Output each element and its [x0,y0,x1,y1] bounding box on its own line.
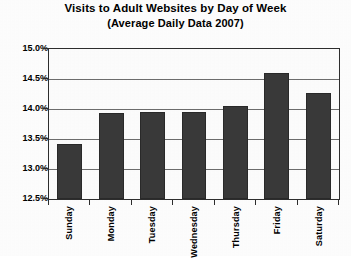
y-axis-tick-label: 14.5% [2,73,48,83]
y-axis-tick-label: 13.0% [2,163,48,173]
y-axis-tick-label: 13.5% [2,133,48,143]
x-axis: SundayMondayTuesdayWednesdayThursdayFrid… [48,200,340,256]
x-axis-tick-mark [214,200,215,205]
bar-slot [49,49,90,199]
x-axis-tick-label: Sunday [64,206,74,240]
y-axis-tick-label: 12.5% [2,193,48,203]
x-axis-tick-mark [338,200,339,205]
bar [264,73,289,199]
bar-slot [173,49,214,199]
x-axis-tick-mark [48,200,49,205]
bar-slot [132,49,173,199]
bar [182,112,207,199]
x-axis-tick-mark [131,200,132,205]
x-axis-label-slot: Monday [90,206,132,256]
bar [140,112,165,199]
x-axis-tick-label: Saturday [314,206,324,246]
x-axis-tick-label: Wednesday [189,206,199,258]
x-axis-label-slot: Wednesday [173,206,215,256]
x-axis-tick-mark [172,200,173,205]
y-axis: 15.0%14.5%14.0%13.5%13.0%12.5% [0,48,48,200]
chart-title-block: Visits to Adult Websites by Day of Week … [0,1,351,31]
x-axis-tick-label: Monday [106,206,116,241]
y-axis-tick-label: 15.0% [2,43,48,53]
bar-slot [215,49,256,199]
chart-subtitle: (Average Daily Data 2007) [0,16,351,31]
x-axis-tick-mark [89,200,90,205]
bar-slot [256,49,297,199]
bar [57,144,82,199]
plot-area [48,48,340,200]
x-axis-label-slot: Friday [257,206,299,256]
x-axis-label-slot: Tuesday [131,206,173,256]
bar [223,106,248,199]
bar-series [49,49,339,199]
x-axis-tick-mark [255,200,256,205]
x-axis-label-slot: Thursday [215,206,257,256]
bar-slot [90,49,131,199]
bar [306,93,331,199]
bar-slot [298,49,339,199]
chart-title: Visits to Adult Websites by Day of Week [0,1,351,16]
bar [99,113,124,199]
x-axis-tick-mark [297,200,298,205]
x-axis-tick-label: Friday [272,206,282,234]
x-axis-labels: SundayMondayTuesdayWednesdayThursdayFrid… [48,206,340,256]
y-axis-tick-label: 14.0% [2,103,48,113]
x-axis-tick-label: Tuesday [147,206,157,243]
x-axis-tick-label: Thursday [231,206,241,248]
x-axis-label-slot: Saturday [298,206,340,256]
x-axis-label-slot: Sunday [48,206,90,256]
